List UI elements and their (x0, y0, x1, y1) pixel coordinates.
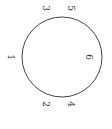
circle-diagram (0, 0, 112, 129)
point-label-3: 3 (40, 3, 50, 13)
point-label-4: 4 (65, 99, 75, 109)
point-label-5: 5 (65, 3, 75, 13)
point-label-1: 1 (5, 52, 15, 62)
point-label-2: 2 (40, 99, 50, 109)
point-label-6: 6 (83, 52, 93, 62)
